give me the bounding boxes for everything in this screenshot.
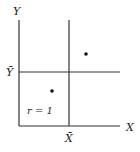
x-mean-label: X̄ (64, 132, 74, 145)
upper-right-point (84, 52, 88, 56)
x-axis-label: X (125, 121, 135, 134)
y-mean-label: Ȳ (6, 66, 15, 79)
y-axis-label: Y (13, 5, 22, 18)
scatter-quadrant-diagram: Y X X̄ Ȳ r = 1 (0, 0, 140, 152)
correlation-annotation: r = 1 (27, 105, 53, 116)
lower-left-point (50, 89, 54, 93)
